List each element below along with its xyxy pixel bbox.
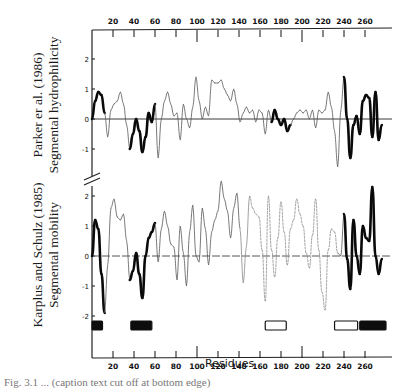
upper-label-line1: Parker er al. (1986) bbox=[30, 35, 46, 175]
mobility-line-segment bbox=[146, 238, 149, 256]
mobility-line-segment bbox=[256, 214, 259, 217]
mobility-line-segment bbox=[183, 253, 186, 286]
hydrophilicity-line-segment bbox=[193, 77, 196, 107]
y-tick-label: 1 bbox=[85, 86, 89, 94]
hydrophilicity-line-segment bbox=[114, 101, 117, 104]
hydrophilicity-line-segment bbox=[158, 119, 161, 158]
top-tick-label: 220 bbox=[315, 17, 331, 26]
mobility-line-segment bbox=[281, 202, 284, 232]
mobility-line-segment bbox=[224, 199, 227, 211]
y-tick-label: -1 bbox=[82, 146, 89, 154]
hydrophilicity-line-segment bbox=[290, 119, 293, 125]
mobility-line-segment bbox=[193, 205, 196, 256]
top-tick-label: 200 bbox=[294, 17, 310, 26]
mobility-line-segment bbox=[328, 229, 331, 250]
y-tick-label: 0 bbox=[85, 116, 89, 124]
y-tick-label: 1 bbox=[85, 223, 89, 231]
top-tick-label: 20 bbox=[108, 17, 118, 26]
hydrophilicity-line-segment bbox=[265, 110, 268, 134]
figure-caption-fragment: Fig. 3.1 ... (caption text cut off at bo… bbox=[4, 376, 400, 388]
bottom-tick-label: 260 bbox=[357, 362, 373, 371]
mobility-line-segment bbox=[300, 214, 303, 226]
hydrophilicity-line-segment bbox=[376, 92, 379, 140]
mobility-line-segment bbox=[111, 199, 114, 208]
upper-panel-y-label: Parker er al. (1986) Segmental hydrophil… bbox=[30, 35, 62, 175]
axes-frame bbox=[84, 28, 392, 358]
lower-label-line2: Segmental mobility bbox=[46, 175, 62, 335]
open-structure-bar bbox=[335, 321, 358, 330]
bottom-tick-label: 20 bbox=[108, 362, 118, 371]
mobility-line-segment bbox=[205, 229, 208, 265]
mobility-line-segment bbox=[309, 235, 312, 268]
mobility-line-segment bbox=[180, 226, 183, 253]
mobility-line-segment bbox=[259, 217, 262, 250]
mobility-line-segment bbox=[174, 247, 177, 280]
mobility-line-segment bbox=[101, 274, 104, 313]
mobility-line-segment bbox=[313, 199, 316, 235]
mobility-line-segment bbox=[114, 199, 117, 217]
hydrophilicity-line-segment bbox=[127, 125, 130, 149]
hydrophilicity-line-segment bbox=[272, 110, 275, 122]
mobility-line-segment bbox=[231, 208, 234, 238]
hydrophilicity-line-segment bbox=[328, 92, 331, 107]
hydrophilicity-line-segment bbox=[221, 80, 224, 89]
hydrophilicity-line-segment bbox=[177, 113, 180, 140]
mobility-line-segment bbox=[161, 211, 164, 229]
hydrophilicity-line-segment bbox=[196, 77, 199, 101]
hydrophilicity-line-segment bbox=[133, 119, 136, 134]
hydrophilicity-line-segment bbox=[294, 113, 297, 119]
mobility-line-segment bbox=[262, 250, 265, 301]
y-tick-label: 0 bbox=[85, 253, 89, 261]
mobility-line-segment bbox=[341, 214, 344, 256]
data-series bbox=[92, 77, 382, 313]
mobility-line-segment bbox=[202, 208, 205, 229]
hydrophilicity-line-segment bbox=[250, 110, 253, 113]
bottom-tick-label: 100 bbox=[189, 362, 205, 371]
mobility-line-segment bbox=[363, 226, 366, 238]
hydrophilicity-line-segment bbox=[275, 110, 278, 119]
mobility-line-segment bbox=[243, 247, 246, 283]
mobility-line-segment bbox=[237, 193, 240, 229]
mobility-line-segment bbox=[379, 259, 382, 274]
mobility-line-segment bbox=[344, 214, 347, 259]
mobility-line-segment bbox=[130, 271, 133, 280]
hydrophilicity-line-segment bbox=[297, 110, 300, 113]
filled-structure-bar bbox=[92, 321, 103, 330]
hydrophilicity-line-segment bbox=[309, 110, 312, 119]
hydrophilicity-line-segment bbox=[256, 110, 259, 122]
filled-structure-bar bbox=[131, 321, 152, 330]
mobility-line-segment bbox=[152, 223, 155, 232]
top-tick-label: 260 bbox=[357, 17, 373, 26]
mobility-line-segment bbox=[168, 226, 171, 244]
hydrophilicity-line-segment bbox=[246, 107, 249, 113]
top-tick-label: 160 bbox=[252, 17, 268, 26]
hydrophilicity-line-segment bbox=[168, 92, 171, 104]
hydrophilicity-line-segment bbox=[139, 131, 142, 152]
mobility-line-segment bbox=[105, 265, 108, 313]
mobility-line-segment bbox=[212, 220, 215, 232]
bottom-tick-label: 60 bbox=[150, 362, 160, 371]
hydrophilicity-line-segment bbox=[101, 95, 104, 113]
mobility-line-segment bbox=[120, 214, 123, 220]
y-tick-label: -1 bbox=[82, 283, 89, 291]
bottom-tick-label: 200 bbox=[294, 362, 310, 371]
mobility-line-segment bbox=[177, 226, 180, 280]
hydrophilicity-line-segment bbox=[303, 110, 306, 113]
bottom-tick-label: 240 bbox=[336, 362, 352, 371]
mobility-line-segment bbox=[265, 196, 268, 301]
bottom-tick-label: 80 bbox=[171, 362, 181, 371]
mobility-line-segment bbox=[331, 229, 334, 232]
mobility-line-segment bbox=[95, 220, 98, 229]
hydrophilicity-line-segment bbox=[218, 80, 221, 83]
lower-panel-y-label: Karplus and Schulz (1985) Segmental mobi… bbox=[30, 175, 62, 335]
hydrophilicity-line-segment bbox=[335, 131, 338, 167]
mobility-line-segment bbox=[253, 208, 256, 214]
mobility-line-segment bbox=[297, 199, 300, 214]
hydrophilicity-line-segment bbox=[117, 92, 120, 101]
mobility-line-segment bbox=[218, 181, 221, 211]
hydrophilicity-line-segment bbox=[142, 137, 145, 152]
top-tick-label: 180 bbox=[273, 17, 289, 26]
hydrophilicity-line-segment bbox=[202, 107, 205, 119]
hydrophilicity-line-segment bbox=[146, 113, 149, 137]
hydrophilicity-line-segment bbox=[234, 89, 237, 104]
